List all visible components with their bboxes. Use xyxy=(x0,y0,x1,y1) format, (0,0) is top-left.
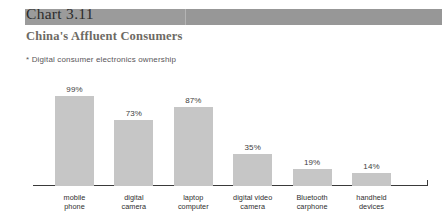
bar-value-label: 73% xyxy=(102,109,165,118)
bar xyxy=(352,173,391,186)
bar-category-label: Bluetoothcarphone xyxy=(279,194,346,211)
plot-area: 99%mobilephone73%digitalcamera87%laptopc… xyxy=(0,0,442,220)
bar xyxy=(293,169,332,186)
bar-category-label-line: carphone xyxy=(279,203,346,212)
bar-value-label: 14% xyxy=(340,162,403,171)
bar-value-label: 99% xyxy=(43,85,106,94)
bar xyxy=(55,96,94,186)
bar-value-label: 35% xyxy=(221,143,284,152)
bar-category-label-line: computer xyxy=(160,203,227,212)
bar-category-label-line: camera xyxy=(100,203,167,212)
bar-category-label-line: camera xyxy=(219,203,286,212)
bar-category-label: digitalcamera xyxy=(100,194,167,211)
x-axis-end-tick xyxy=(427,180,428,186)
bar xyxy=(114,120,153,186)
bar xyxy=(233,154,272,186)
bar-category-label: mobilephone xyxy=(41,194,108,211)
bar-category-label: handhelddevices xyxy=(338,194,405,211)
bar-value-label: 19% xyxy=(281,158,344,167)
chart-figure: Chart 3.11 China's Affluent Consumers * … xyxy=(0,0,442,220)
bar-category-label-line: phone xyxy=(41,203,108,212)
bar-category-label: digital videocamera xyxy=(219,194,286,211)
bar-category-label: laptopcomputer xyxy=(160,194,227,211)
bar-value-label: 87% xyxy=(162,96,225,105)
bar-category-label-line: devices xyxy=(338,203,405,212)
bar xyxy=(174,107,213,186)
